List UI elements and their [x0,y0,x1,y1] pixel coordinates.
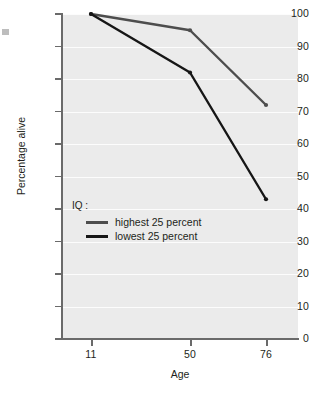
legend-label-highest: highest 25 percent [115,216,201,228]
legend-item-lowest: lowest 25 percent [72,230,201,242]
series-layer [0,0,309,394]
chart-legend: IQ : highest 25 percent lowest 25 percen… [72,200,201,242]
data-point-1-1 [188,70,192,74]
legend-swatch-lowest [86,235,108,238]
series-line-1 [91,14,266,199]
series-line-0 [91,14,266,105]
legend-swatch-highest [86,221,108,224]
data-point-0-1 [188,28,192,32]
data-point-0-2 [264,103,268,107]
legend-title: IQ : [72,200,201,211]
legend-item-highest: highest 25 percent [72,216,201,228]
chart-figure: 100 90 80 70 60 50 40 30 20 10 0 11 50 7… [0,0,309,394]
legend-label-lowest: lowest 25 percent [115,230,197,242]
data-point-1-0 [89,12,93,16]
data-point-1-2 [264,197,268,201]
